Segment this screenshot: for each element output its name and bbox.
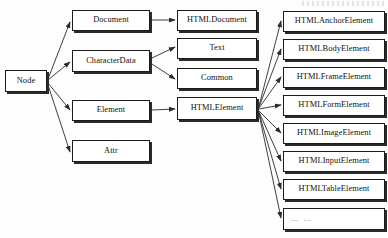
class-box-label: HTMLAnchorElement <box>295 17 373 25</box>
class-box-label: HTMLImageElement <box>297 129 371 137</box>
class-box-htmltableelement[interactable]: HTMLTableElement <box>283 179 385 200</box>
class-box-label: HTMLBodyElement <box>298 45 369 53</box>
edge-characterdata-to-common <box>152 64 175 79</box>
class-box-htmlbodyelement[interactable]: HTMLBodyElement <box>283 39 385 60</box>
edge-node-to-attr <box>48 85 70 152</box>
class-box-common[interactable]: Common <box>177 68 257 89</box>
class-box-label: Node <box>17 77 36 85</box>
edge-htmlelement-to-htmlbodyelement <box>259 49 281 107</box>
edge-htmlelement-to-htmlinputelement <box>259 112 281 161</box>
class-box-text[interactable]: Text <box>177 38 257 59</box>
edge-node-to-document <box>48 22 70 79</box>
class-box-htmlelement[interactable]: HTMLElement <box>177 97 257 120</box>
class-box-label: Attr <box>104 147 118 155</box>
class-box-label: HTMLElement <box>191 104 244 112</box>
class-box-htmlframeelement[interactable]: HTMLFrameElement <box>283 67 385 88</box>
edge-htmlelement-to-ellipsis <box>259 114 281 218</box>
edge-htmlelement-to-htmlformelement <box>259 105 281 109</box>
class-box-htmldocument[interactable]: HTMLDocument <box>177 10 257 31</box>
edge-htmlelement-to-htmlimageelement <box>259 111 281 133</box>
class-box-htmlinputelement[interactable]: HTMLInputElement <box>283 151 385 172</box>
class-box-characterdata[interactable]: CharacterData <box>72 50 150 72</box>
class-box-label: … … <box>291 215 313 223</box>
class-box-attr[interactable]: Attr <box>72 140 150 162</box>
scan-artifact <box>302 1 386 6</box>
edge-htmlelement-to-htmltableelement <box>259 113 281 189</box>
class-box-element[interactable]: Element <box>72 100 150 121</box>
class-box-htmlformelement[interactable]: HTMLFormElement <box>283 95 385 116</box>
class-box-label: Common <box>201 74 233 82</box>
edge-htmlelement-to-htmlframeelement <box>259 77 281 108</box>
class-box-label: CharacterData <box>86 57 136 65</box>
class-box-document[interactable]: Document <box>72 10 150 31</box>
class-box-label: HTMLInputElement <box>299 157 370 165</box>
edge-node-to-element <box>48 83 70 110</box>
class-box-ellipsis[interactable]: … … <box>283 208 385 230</box>
class-box-label: Document <box>93 16 129 24</box>
class-box-htmlanchorelement[interactable]: HTMLAnchorElement <box>283 11 385 32</box>
class-box-label: HTMLFormElement <box>298 101 369 109</box>
class-box-label: Text <box>209 44 224 52</box>
class-box-label: Element <box>97 106 126 114</box>
class-box-node[interactable]: Node <box>5 70 47 92</box>
class-box-htmlimageelement[interactable]: HTMLImageElement <box>283 123 385 144</box>
class-box-label: HTMLTableElement <box>299 185 370 193</box>
edge-characterdata-to-text <box>152 47 175 58</box>
class-box-label: HTMLFrameElement <box>297 73 372 81</box>
edge-element-to-htmlelement <box>152 109 175 110</box>
edge-htmlelement-to-htmlanchorelement <box>259 21 281 106</box>
edge-node-to-characterdata <box>48 62 70 80</box>
class-box-label: HTMLDocument <box>187 16 247 24</box>
dom-hierarchy-diagram: NodeDocumentCharacterDataElementAttrHTML… <box>0 0 388 238</box>
